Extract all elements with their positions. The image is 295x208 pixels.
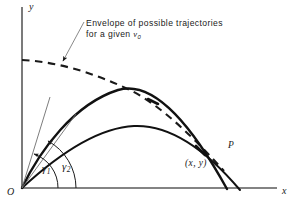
origin-label: O <box>7 186 15 197</box>
v0-subscript: 0 <box>138 34 142 40</box>
point-xy-label: (x, y) <box>185 158 207 168</box>
gamma-2-subscript: 2 <box>67 165 71 174</box>
angle-gamma-1-label: γ1 <box>42 162 51 176</box>
x-axis-label: x <box>282 185 287 196</box>
envelope-curve <box>22 60 224 171</box>
point-P-label: P <box>228 140 234 150</box>
callout-leader-line <box>63 22 84 61</box>
callout-line-1: Envelope of possible trajectories <box>86 18 223 29</box>
projectile-envelope-figure: Envelope of possible trajectories for a … <box>0 0 295 208</box>
callout-line-2: for a given v0 <box>86 29 223 43</box>
y-axis-label: y <box>29 1 34 12</box>
trajectory-upper <box>22 88 227 189</box>
callout-line-2-prefix: for a given <box>86 29 133 39</box>
envelope-callout-text: Envelope of possible trajectories for a … <box>86 18 223 43</box>
gamma-1-subscript: 1 <box>47 167 51 176</box>
angle-gamma-2-label: γ2 <box>62 160 71 174</box>
